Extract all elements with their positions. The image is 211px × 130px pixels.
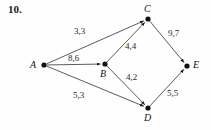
edge-label-a-b: 8,6 (68, 53, 79, 63)
figure-container: 10. ABCDE 3,38,65,34,44,29,75,5 (0, 0, 211, 130)
edge-label-b-d: 4,2 (126, 72, 137, 82)
graph-edge-a-b (47, 64, 101, 65)
edge-label-d-e: 5,5 (167, 88, 178, 98)
graph-node-a (41, 62, 46, 67)
graph-node-d (145, 105, 150, 110)
node-label-b: B (100, 68, 106, 79)
node-label-c: C (144, 3, 151, 14)
node-label-d: D (144, 112, 151, 123)
edge-label-a-c: 3,3 (74, 26, 85, 36)
node-label-a: A (30, 59, 36, 70)
edge-label-a-d: 5,3 (73, 90, 84, 100)
edge-label-c-e: 9,7 (168, 28, 179, 38)
graph-node-b (102, 61, 107, 66)
edge-label-b-c: 4,4 (125, 41, 136, 51)
node-label-e: E (193, 59, 199, 70)
graph-node-c (145, 16, 150, 21)
graph-node-e (184, 63, 189, 68)
edge-layer (47, 21, 185, 106)
